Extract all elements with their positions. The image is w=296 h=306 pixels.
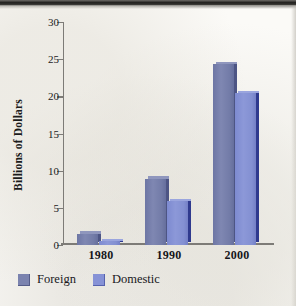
y-axis-title-text: Billions of Dollars xyxy=(12,99,24,191)
legend-label: Foreign xyxy=(37,272,76,287)
bar-top-cap xyxy=(80,231,101,234)
bar-face xyxy=(77,234,98,245)
legend-swatch-foreign-icon xyxy=(18,274,30,286)
x-axis-tick-labels: 198019902000 xyxy=(63,248,272,266)
x-axis-label-1990: 1990 xyxy=(145,248,193,263)
bar-domestic-1990[interactable] xyxy=(167,201,188,245)
plot-area: 051015202530 xyxy=(63,22,272,245)
bar-side xyxy=(188,199,191,243)
legend-item-foreign[interactable]: Foreign xyxy=(18,272,76,287)
bar-foreign-2000[interactable] xyxy=(213,64,234,245)
x-axis-label-1980: 1980 xyxy=(77,248,125,263)
legend-swatch-domestic-icon xyxy=(93,274,105,286)
bar-foreign-1980[interactable] xyxy=(77,234,98,245)
bar-top-cap xyxy=(238,91,259,94)
bar-foreign-1990[interactable] xyxy=(145,179,166,245)
bar-face xyxy=(213,64,234,245)
bar-face xyxy=(167,201,188,245)
bar-top-cap xyxy=(148,176,169,179)
y-axis-title: Billions of Dollars xyxy=(9,60,27,230)
bar-face xyxy=(145,179,166,245)
bar-top-cap xyxy=(216,62,237,65)
bar-domestic-1980[interactable] xyxy=(99,241,120,245)
y-axis-tick-label: 15 xyxy=(48,127,59,139)
bar-chart-figure: Billions of Dollars 051015202530 1980199… xyxy=(0,0,296,306)
y-axis-tick-label: 30 xyxy=(48,16,59,28)
bar-face xyxy=(235,93,256,245)
y-axis-tick-label: 5 xyxy=(54,202,60,214)
bar-group xyxy=(145,22,193,245)
y-axis-tick-label: 0 xyxy=(54,239,60,251)
bar-top-cap xyxy=(170,199,191,202)
y-axis-tick-label: 20 xyxy=(48,90,59,102)
chart-legend: ForeignDomestic xyxy=(18,272,160,287)
y-axis-tick-label: 10 xyxy=(48,164,59,176)
bar-face xyxy=(99,241,120,245)
bars-layer xyxy=(63,22,272,245)
bar-group xyxy=(213,22,261,245)
bar-domestic-2000[interactable] xyxy=(235,93,256,245)
legend-item-domestic[interactable]: Domestic xyxy=(93,272,160,287)
bar-top-cap xyxy=(102,239,123,242)
bar-side xyxy=(256,91,259,243)
legend-label: Domestic xyxy=(112,272,160,287)
y-axis-tick-label: 25 xyxy=(48,53,59,65)
bar-group xyxy=(77,22,125,245)
x-axis-label-2000: 2000 xyxy=(213,248,261,263)
